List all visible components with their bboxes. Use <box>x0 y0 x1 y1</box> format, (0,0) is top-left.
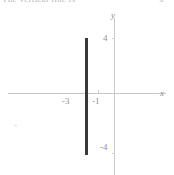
graph-screenshot: The vertical line is x = x y -3 -1 4 -4 <box>0 0 174 175</box>
x-tick-label-minus-1: -1 <box>92 96 100 106</box>
scan-speck <box>14 124 17 127</box>
y-axis-label: y <box>111 10 115 20</box>
vertical-line-x-equals-minus-3 <box>85 38 88 155</box>
y-tick-mark-4 <box>112 38 115 39</box>
x-axis-label: x <box>160 88 164 98</box>
coordinate-plane: x y -3 -1 4 -4 <box>0 0 174 175</box>
y-tick-label-4: 4 <box>103 33 108 43</box>
y-tick-label-minus-4: -4 <box>100 142 108 152</box>
y-axis <box>114 18 115 175</box>
x-tick-mark-minus-1 <box>98 90 99 93</box>
x-tick-label-minus-3: -3 <box>62 96 70 106</box>
y-tick-mark-minus-4 <box>112 153 115 154</box>
